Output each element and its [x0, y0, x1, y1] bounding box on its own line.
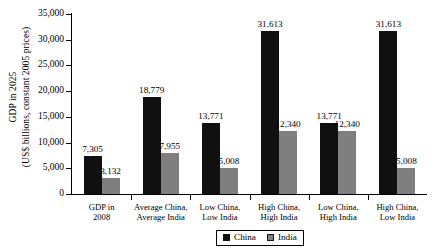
legend-swatch-china-icon — [223, 234, 230, 241]
bar-india-0 — [102, 178, 120, 194]
bar-value-label: 7,305 — [71, 145, 115, 154]
y-axis-tick — [66, 168, 71, 169]
y-axis-tick-label: 30,000 — [0, 35, 64, 45]
x-axis-tick — [368, 195, 369, 200]
legend-item-china: China — [223, 232, 256, 243]
y-axis-tick-label: 10,000 — [0, 138, 64, 148]
bar-value-label: 5,008 — [384, 157, 428, 166]
bar-value-label: 5,008 — [207, 157, 251, 166]
bar-value-label: 18,779 — [130, 86, 174, 95]
chart-legend: ChinaIndia — [216, 230, 304, 246]
y-axis-tick — [66, 40, 71, 41]
bar-india-3 — [279, 131, 297, 194]
bar-india-5 — [397, 168, 415, 194]
bar-value-label: 12,340 — [266, 120, 310, 129]
y-axis-tick — [66, 194, 71, 195]
y-axis-tick-label: 0 — [0, 189, 64, 199]
y-axis-tick-label: 15,000 — [0, 112, 64, 122]
x-axis-tick — [250, 195, 251, 200]
bar-chart-figure: GDP in 2025 (US$ billions, constant 2005… — [0, 0, 436, 250]
bar-india-4 — [338, 131, 356, 194]
category-label-line1: High China, — [357, 202, 436, 212]
bar-china-5 — [379, 31, 397, 194]
legend-item-india: India — [267, 232, 297, 243]
bar-value-label: 12,340 — [325, 120, 369, 129]
bar-china-3 — [261, 31, 279, 194]
y-axis-tick — [66, 14, 71, 15]
plot-area: 7,3053,13218,7797,95513,7715,00831,61312… — [72, 14, 427, 194]
category-label-line2: Low India — [357, 212, 436, 222]
y-axis-tick-label: 35,000 — [0, 9, 64, 19]
bar-value-label: 13,771 — [189, 112, 233, 121]
y-axis-tick — [66, 143, 71, 144]
y-axis-tick-label: 25,000 — [0, 60, 64, 70]
y-axis-tick — [66, 117, 71, 118]
legend-swatch-india-icon — [267, 234, 274, 241]
x-axis-tick — [190, 195, 191, 200]
y-axis-tick — [66, 65, 71, 66]
y-axis-tick — [66, 91, 71, 92]
legend-label: India — [278, 232, 297, 243]
x-axis-tick — [309, 195, 310, 200]
bar-india-1 — [161, 153, 179, 194]
y-axis-tick-label: 5,000 — [0, 163, 64, 173]
y-axis-tick-label: 20,000 — [0, 86, 64, 96]
x-axis-tick — [131, 195, 132, 200]
x-axis-category-label: High China,Low India — [357, 202, 436, 222]
legend-label: China — [234, 232, 256, 243]
bar-china-4 — [320, 123, 338, 194]
bar-value-label: 7,955 — [148, 142, 192, 151]
bar-value-label: 31,613 — [248, 20, 292, 29]
bar-india-2 — [220, 168, 238, 194]
bar-value-label: 31,613 — [366, 20, 410, 29]
bar-value-label: 3,132 — [89, 167, 133, 176]
